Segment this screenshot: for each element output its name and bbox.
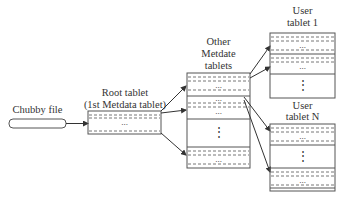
other-metadata-ellipsis-2: ... <box>187 93 250 104</box>
other-metadata-title-3: tablets <box>187 60 250 71</box>
user-tablet-n-title-2: tablet N <box>270 111 335 122</box>
user-tablet-1-ellipsis-2: ... <box>270 61 335 72</box>
user-tablet-1-vertical-ellipsis: ⋮ <box>270 80 335 91</box>
other-metadata-ellipsis-1: ... <box>187 80 250 91</box>
arrow-root-to-meta-3 <box>161 133 186 155</box>
chubby-file-box <box>9 119 66 128</box>
other-metadata-ellipsis-3: ... <box>187 106 250 117</box>
root-tablet-subtitle: (1st Metdata tablet) <box>75 99 175 110</box>
user-tablet-n-vertical-ellipsis: ⋮ <box>270 151 335 162</box>
arrow-meta-to-user1-b <box>250 67 270 78</box>
user-tablet-1-title-1: User <box>270 5 335 16</box>
chubby-file-label: Chubby file <box>9 104 66 115</box>
other-metadata-title-2: Metdate <box>187 48 250 59</box>
arrow-root-to-meta-2 <box>161 110 186 113</box>
arrow-meta-to-user1-a <box>250 46 270 74</box>
user-tablet-n-ellipsis-1: ... <box>270 131 335 142</box>
other-metadata-ellipsis-4: ... <box>187 154 250 165</box>
user-tablet-n-ellipsis-2: ... <box>270 175 335 186</box>
root-tablet-title: Root tablet <box>80 87 170 98</box>
other-metadata-vertical-ellipsis: ⋮ <box>187 127 250 138</box>
user-tablet-1-ellipsis-1: ... <box>270 40 335 51</box>
other-metadata-title-1: Other <box>187 36 250 47</box>
root-tablet-ellipsis: ... <box>88 117 161 128</box>
user-tablet-1-title-2: tablet 1 <box>270 17 335 28</box>
user-tablet-n-title-1: User <box>270 100 335 111</box>
